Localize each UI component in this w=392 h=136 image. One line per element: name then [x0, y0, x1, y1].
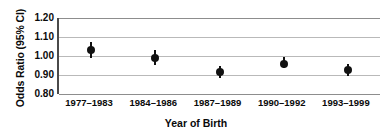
x-tick-label: 1977–1983	[53, 97, 125, 108]
x-tick-label: 1990–1992	[246, 97, 318, 108]
x-axis-title: Year of Birth	[0, 117, 392, 129]
gridline	[59, 56, 380, 57]
gridline	[59, 37, 380, 38]
x-tick-label: 1993–1999	[310, 97, 382, 108]
y-axis-tick-labels: 1.20 1.10 1.00 0.90 0.80	[18, 0, 54, 136]
x-tick-label: 1987–1989	[182, 97, 254, 108]
y-tick-label: 1.20	[20, 13, 54, 23]
data-point-marker	[344, 66, 352, 74]
y-tick-label: 0.90	[20, 70, 54, 80]
x-tick-label: 1984–1986	[117, 97, 189, 108]
y-tick-label: 1.10	[20, 32, 54, 42]
plot-area	[57, 18, 378, 94]
x-axis-tick-labels: 1977–1983 1984–1986 1987–1989 1990–1992 …	[0, 97, 392, 111]
data-point-marker	[87, 46, 95, 54]
y-tick-label: 1.00	[20, 51, 54, 61]
data-point-marker	[280, 60, 288, 68]
gridline	[59, 18, 380, 19]
odds-ratio-forest-chart: Odds Ratio (95% CI) 1.20 1.10 1.00 0.90 …	[0, 0, 392, 136]
data-point-marker	[216, 68, 224, 76]
data-point-marker	[151, 54, 159, 62]
gridline	[59, 94, 380, 95]
